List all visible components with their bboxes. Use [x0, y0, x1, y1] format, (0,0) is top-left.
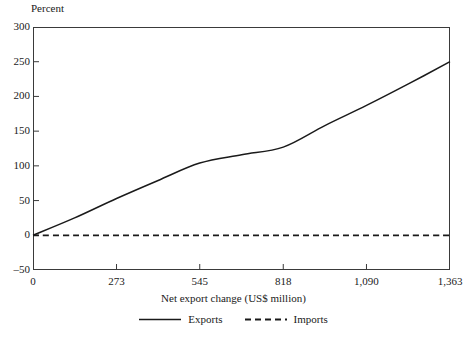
x-axis-tick-label: 545	[191, 276, 208, 287]
y-axis-tick-label: 50	[0, 195, 30, 206]
x-axis-tick-label: 1,090	[354, 276, 379, 287]
legend-label: Imports	[294, 313, 328, 325]
series-line-exports	[33, 62, 450, 236]
y-axis-tick-label: 250	[0, 56, 30, 67]
chart-legend: ExportsImports	[0, 313, 467, 325]
x-axis-tick-label: 1,363	[438, 276, 463, 287]
x-axis-tick-label: 0	[30, 276, 36, 287]
y-axis-title: Percent	[31, 2, 64, 15]
y-axis-tick-label: 200	[0, 90, 30, 101]
x-axis-tick-label: 273	[108, 276, 125, 287]
legend-swatch-dashed-line-icon	[245, 315, 287, 324]
legend-label: Exports	[188, 313, 222, 325]
plot-svg	[33, 27, 450, 270]
y-axis-tick-label: 300	[0, 21, 30, 32]
y-axis-tick-label: –50	[0, 264, 30, 275]
x-axis-tick-label: 818	[275, 276, 292, 287]
legend-entry: Imports	[245, 313, 328, 325]
y-axis-tick-label: 0	[0, 229, 30, 240]
chart-container: Percent –50050100150200250300 0273545818…	[0, 0, 467, 340]
x-axis-title: Net export change (US$ million)	[0, 292, 467, 305]
y-axis-tick-label: 150	[0, 125, 30, 136]
legend-swatch-solid-line-icon	[139, 315, 181, 324]
legend-entry: Exports	[139, 313, 222, 325]
y-axis-tick-label: 100	[0, 160, 30, 171]
